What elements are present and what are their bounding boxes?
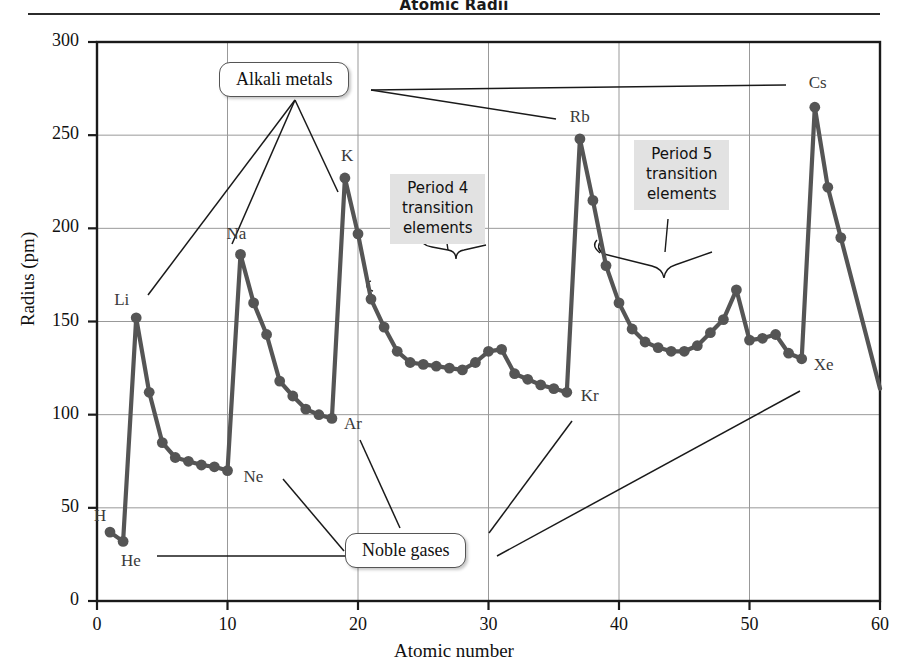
data-point [588, 195, 599, 206]
x-tick-label: 40 [597, 614, 641, 635]
data-markers [105, 102, 847, 547]
data-point [222, 465, 233, 476]
data-point [822, 182, 833, 193]
data-point [366, 294, 377, 305]
data-point [575, 134, 586, 145]
callout-line: transition [646, 165, 717, 185]
y-tick-label: 250 [35, 123, 79, 144]
callout-period-4-transition: Period 4transitionelements [390, 174, 485, 244]
data-point [666, 346, 677, 357]
data-point [118, 536, 129, 547]
data-point [287, 391, 298, 402]
leader-line [665, 219, 668, 252]
data-point [653, 342, 664, 353]
callout-line: elements [402, 219, 473, 239]
callout-line: Period 5 [646, 145, 717, 165]
data-point [809, 102, 820, 113]
leader-line [497, 391, 800, 556]
data-point [418, 359, 429, 370]
x-tick-label: 60 [858, 614, 902, 635]
data-point [548, 383, 559, 394]
element-label-na: Na [227, 224, 247, 244]
leader-line [148, 100, 295, 295]
data-point [405, 357, 416, 368]
element-label-he: He [121, 551, 141, 571]
data-point [783, 348, 794, 359]
data-point [627, 324, 638, 335]
y-tick-label: 100 [35, 403, 79, 424]
data-point [640, 337, 651, 348]
callout-line: Period 4 [402, 179, 473, 199]
element-label-kr: Kr [581, 386, 599, 406]
data-point [561, 387, 572, 398]
leader-line [283, 479, 344, 551]
data-point [392, 346, 403, 357]
leader-line [489, 421, 572, 533]
data-point [470, 357, 481, 368]
callout-period-5-transition: Period 5transitionelements [634, 140, 729, 210]
x-tick-label: 30 [467, 614, 511, 635]
data-point [235, 249, 246, 260]
data-point [679, 346, 690, 357]
data-point [692, 340, 703, 351]
data-point [535, 380, 546, 391]
data-point [144, 387, 155, 398]
data-point [170, 452, 181, 463]
leader-line [371, 85, 786, 90]
gridlines [97, 42, 880, 601]
x-axis-label: Atomic number [0, 640, 908, 662]
data-point [744, 335, 755, 346]
data-point [770, 329, 781, 340]
element-label-cs: Cs [809, 73, 827, 93]
data-point [327, 413, 338, 424]
element-label-k: K [341, 146, 353, 166]
data-point [496, 344, 507, 355]
element-label-ar: Ar [344, 414, 362, 434]
data-point [614, 298, 625, 309]
data-point [796, 353, 807, 364]
data-point [261, 329, 272, 340]
data-point [274, 376, 285, 387]
callout-line: transition [402, 199, 473, 219]
data-point [209, 461, 220, 472]
plot-area: Radius (pm) Atomic number 05010015020025… [0, 0, 908, 672]
leader-line [295, 100, 338, 192]
data-point [522, 374, 533, 385]
callout-line: elements [646, 185, 717, 205]
x-tick-label: 10 [206, 614, 250, 635]
data-point [183, 456, 194, 467]
data-point [196, 460, 207, 471]
y-tick-label: 200 [35, 216, 79, 237]
y-tick-label: 50 [35, 496, 79, 517]
x-tick-label: 20 [336, 614, 380, 635]
element-label-li: Li [114, 290, 129, 310]
y-tick-label: 150 [35, 310, 79, 331]
leader-line [360, 440, 400, 528]
data-point [300, 404, 311, 415]
data-point [248, 298, 259, 309]
data-line [110, 107, 880, 541]
leader-line [599, 241, 712, 278]
data-point [379, 322, 390, 333]
data-point [509, 368, 520, 379]
element-label-h: H [94, 506, 106, 526]
callout-noble-gases: Noble gases [345, 533, 466, 568]
data-point [444, 363, 455, 374]
y-tick-label: 0 [35, 589, 79, 610]
data-point [757, 333, 768, 344]
y-tick-label: 300 [35, 30, 79, 51]
data-point [157, 437, 168, 448]
element-label-ne: Ne [244, 467, 264, 487]
data-point [431, 361, 442, 372]
data-point [314, 409, 325, 420]
element-label-rb: Rb [570, 107, 590, 127]
data-point [483, 346, 494, 357]
tick-marks [88, 42, 880, 610]
data-point [353, 229, 364, 240]
data-point [705, 327, 716, 338]
data-point [731, 284, 742, 295]
element-label-xe: Xe [814, 355, 834, 375]
callout-alkali-metals: Alkali metals [219, 62, 349, 97]
data-point [835, 232, 846, 243]
x-tick-label: 50 [728, 614, 772, 635]
